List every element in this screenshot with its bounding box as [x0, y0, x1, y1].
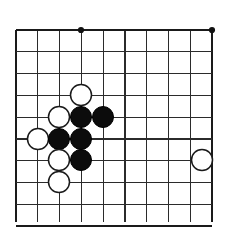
stone-black-d5[interactable] [71, 107, 92, 128]
star-point-top-right [209, 27, 215, 33]
star-point-top-left [78, 27, 84, 33]
go-board-figure [0, 0, 226, 233]
stone-white-c5[interactable] [49, 107, 70, 128]
stone-white-i7[interactable] [192, 150, 213, 171]
stone-white-b6[interactable] [28, 129, 49, 150]
stone-white-c8[interactable] [49, 172, 70, 193]
stone-white-d4[interactable] [71, 85, 92, 106]
stone-black-c6[interactable] [49, 129, 70, 150]
stone-white-c7[interactable] [49, 150, 70, 171]
stone-black-d7[interactable] [71, 150, 92, 171]
stone-black-e5[interactable] [93, 107, 114, 128]
go-board-canvas[interactable] [0, 0, 226, 233]
grid-lines [16, 30, 212, 226]
stone-black-d6[interactable] [71, 129, 92, 150]
